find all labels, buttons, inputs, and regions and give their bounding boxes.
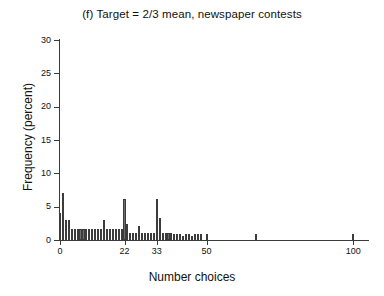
x-axis-line [59,240,369,241]
histogram-bar [65,220,67,240]
histogram-bar [85,229,87,240]
histogram-bar [162,233,164,240]
y-tick-0 [54,240,59,241]
histogram-bar [100,229,102,240]
histogram-bar [173,234,175,240]
figure-title: (f) Target = 2/3 mean, newspaper contest… [0,8,384,20]
histogram-bar [79,229,81,240]
histogram-bar [59,213,61,240]
y-tick-20 [54,107,59,108]
y-tick-25 [54,73,59,74]
histogram-bar [88,229,90,240]
x-tick-33 [157,241,158,245]
histogram-bar [106,229,108,240]
x-tick-label-50: 50 [192,247,222,256]
histogram-bar [129,233,131,240]
y-tick-5 [54,207,59,208]
histogram-bar [118,229,120,240]
y-tick-10 [54,173,59,174]
histogram-bar [182,236,184,240]
histogram-bar [126,224,128,240]
histogram-bar [200,234,202,240]
histogram-bar [352,234,354,240]
histogram-bar [94,229,96,240]
x-tick-0 [60,241,61,245]
histogram-bar [74,229,76,240]
y-axis-label: Frequency (percent) [21,37,35,237]
histogram-bar [165,233,167,240]
figure-panel: (f) Target = 2/3 mean, newspaper contest… [0,0,384,296]
histogram-bar [103,220,105,240]
histogram-bar [112,229,114,240]
histogram-bar [109,229,111,240]
histogram-bar [121,229,123,240]
histogram-bar [141,233,143,240]
x-tick-label-0: 0 [45,247,75,256]
y-tick-30 [54,40,59,41]
histogram-bar [194,234,196,240]
histogram-bar [97,229,99,240]
histogram-bar [156,199,158,240]
histogram-bar [82,229,84,240]
histogram-bar [132,233,134,240]
histogram-bar [147,233,149,240]
histogram-bar [68,220,70,240]
histogram-bar [185,234,187,240]
histogram-bar [115,229,117,240]
x-axis-label: Number choices [0,270,384,284]
histogram-bar [206,234,208,240]
histogram-bar [153,233,155,240]
histogram-bar [91,229,93,240]
histogram-bar [71,229,73,240]
histogram-bar [191,236,193,240]
histogram-bar [135,233,137,240]
histogram-bar [77,229,79,240]
histogram-bar [170,233,172,240]
histogram-bar [159,218,161,240]
x-tick-label-22: 22 [110,247,140,256]
y-tick-15 [54,140,59,141]
histogram-bar [176,234,178,240]
histogram-bar [197,234,199,240]
y-axis-label-wrap: Frequency (percent) [0,0,1,1]
x-tick-22 [125,241,126,245]
histogram-bar [150,233,152,240]
histogram-bars [60,40,362,240]
histogram-bar [167,233,169,240]
x-tick-label-100: 100 [338,247,368,256]
x-tick-100 [353,241,354,245]
histogram-bar [179,234,181,240]
histogram-bar [138,226,140,240]
histogram-bar [62,193,64,240]
histogram-bar [255,234,257,240]
histogram-bar [188,234,190,240]
x-tick-label-33: 33 [142,247,172,256]
histogram-bar [123,199,125,240]
histogram-bar [144,233,146,240]
x-tick-50 [207,241,208,245]
